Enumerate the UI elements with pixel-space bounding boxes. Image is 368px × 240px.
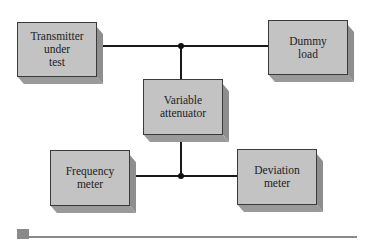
- footer-divider: [29, 236, 357, 238]
- wire-frequency-to-deviation-meter: [133, 175, 237, 177]
- frequency-meter-label-line-1: Frequency: [66, 165, 115, 178]
- frequency-meter-block: Frequency meter: [50, 150, 136, 213]
- attenuator-label-line-2: attenuator: [160, 107, 206, 120]
- bottom-junction-dot: [178, 173, 184, 179]
- frequency-meter-label-line-2: meter: [77, 178, 103, 191]
- dummy-load-label-line-1: Dummy: [289, 35, 327, 48]
- wire-top-junction-to-attenuator: [180, 46, 182, 79]
- top-junction-dot: [178, 43, 184, 49]
- wire-transmitter-to-dummy-load: [100, 45, 268, 47]
- transmitter-label-line-2: under: [44, 43, 70, 56]
- variable-attenuator-block: Variable attenuator: [143, 79, 229, 142]
- deviation-meter-label-line-2: meter: [264, 177, 290, 190]
- transmitter-label-line-1: Transmitter: [30, 30, 83, 43]
- deviation-meter-block: Deviation meter: [237, 149, 323, 212]
- transmitter-under-test-block: Transmitter under test: [17, 22, 103, 84]
- wire-attenuator-to-bottom-junction: [180, 140, 182, 176]
- footer-square-marker: [17, 229, 29, 239]
- transmitter-label-line-3: test: [49, 56, 65, 69]
- dummy-load-label-line-2: load: [298, 48, 318, 61]
- dummy-load-block: Dummy load: [268, 20, 354, 82]
- deviation-meter-label-line-1: Deviation: [254, 164, 299, 177]
- attenuator-label-line-1: Variable: [164, 94, 202, 107]
